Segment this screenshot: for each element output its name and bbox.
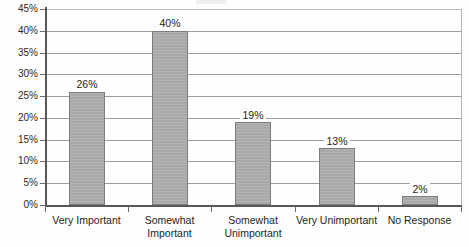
cut-off-title-artifact <box>196 0 226 4</box>
y-tick-mark-15 <box>40 140 45 141</box>
bar-value-very-important: 26% <box>63 79 111 90</box>
category-label-line1: Very Unimportant <box>293 214 380 227</box>
bar-value-somewhat-unimportant: 19% <box>229 110 277 121</box>
category-label-somewhat-unimportant: Somewhat Unimportant <box>211 214 295 240</box>
category-label-line2: Unimportant <box>211 227 295 240</box>
category-label-no-response: No Response <box>378 214 461 227</box>
bar-somewhat-important[interactable] <box>152 31 188 205</box>
y-tick-mark-35 <box>40 53 45 54</box>
bar-very-important[interactable] <box>69 92 105 205</box>
category-label-line1: Somewhat <box>211 214 295 227</box>
category-label-line1: Somewhat <box>128 214 211 227</box>
bar-value-somewhat-important: 40% <box>146 18 194 29</box>
gridline-30 <box>45 74 462 75</box>
y-tick-mark-40 <box>40 31 45 32</box>
y-tick-label-25: 25% <box>0 91 38 101</box>
y-tick-mark-45 <box>40 9 45 10</box>
x-tick-mark-1 <box>128 206 129 212</box>
y-tick-mark-10 <box>40 161 45 162</box>
x-tick-mark-5 <box>461 206 462 212</box>
y-tick-label-35: 35% <box>0 48 38 58</box>
x-tick-mark-2 <box>211 206 212 212</box>
x-tick-mark-3 <box>295 206 296 212</box>
bar-value-very-unimportant: 13% <box>313 136 361 147</box>
y-tick-label-15: 15% <box>0 135 38 145</box>
y-tick-label-20: 20% <box>0 113 38 123</box>
y-tick-mark-30 <box>40 74 45 75</box>
gridline-40 <box>45 31 462 32</box>
bar-chart: 45% 40% 35% 30% 25% 20% 15% 10% 5% 0% 26… <box>0 0 469 247</box>
gridline-35 <box>45 53 462 54</box>
x-tick-mark-0 <box>45 206 46 212</box>
category-label-somewhat-important: Somewhat Important <box>128 214 211 240</box>
bar-no-response[interactable] <box>402 196 438 205</box>
category-label-line2: Important <box>128 227 211 240</box>
category-label-very-unimportant: Very Unimportant <box>293 214 380 227</box>
y-tick-label-5: 5% <box>0 178 38 188</box>
category-label-very-important: Very Important <box>45 214 128 227</box>
gridline-45 <box>45 9 462 10</box>
y-tick-mark-5 <box>40 183 45 184</box>
y-tick-label-40: 40% <box>0 26 38 36</box>
x-tick-mark-4 <box>378 206 379 212</box>
y-tick-label-45: 45% <box>0 4 38 14</box>
y-tick-mark-25 <box>40 96 45 97</box>
x-axis-line <box>45 205 462 207</box>
bar-somewhat-unimportant[interactable] <box>235 122 271 205</box>
y-axis-line <box>45 7 47 207</box>
bar-value-no-response: 2% <box>396 184 444 195</box>
y-tick-label-30: 30% <box>0 69 38 79</box>
category-label-line1: No Response <box>378 214 461 227</box>
bar-very-unimportant[interactable] <box>319 148 355 205</box>
y-tick-label-0: 0% <box>0 200 38 210</box>
gridline-25 <box>45 96 462 97</box>
y-tick-label-10: 10% <box>0 156 38 166</box>
category-label-line1: Very Important <box>45 214 128 227</box>
y-tick-mark-20 <box>40 118 45 119</box>
plot-frame-right <box>461 9 462 205</box>
